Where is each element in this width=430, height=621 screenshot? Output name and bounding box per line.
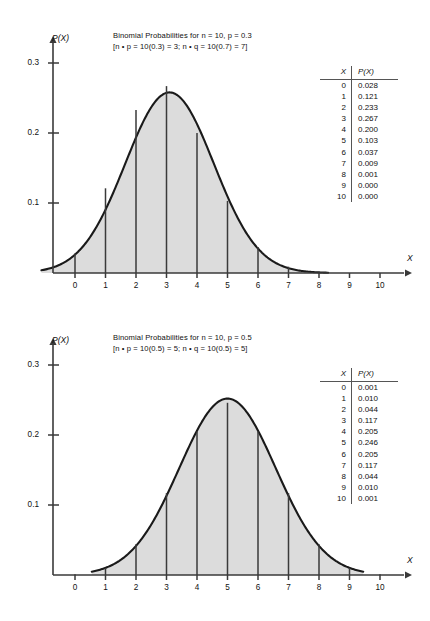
table-row: 00.028 xyxy=(320,80,398,92)
x-tick-label: 8 xyxy=(308,583,330,592)
table-cell-x: 10 xyxy=(320,191,352,202)
table-cell-x: 6 xyxy=(320,449,352,460)
y-tick-label: 0.3 xyxy=(15,58,39,67)
table-cell-x: 7 xyxy=(320,460,352,471)
x-tick-label: 2 xyxy=(125,281,147,290)
table-row: 40.205 xyxy=(320,426,398,437)
table-header-p: P(X) xyxy=(352,66,399,80)
table-row: 90.010 xyxy=(320,482,398,493)
table-cell-probability: 0.117 xyxy=(352,460,399,471)
table-cell-x: 0 xyxy=(320,80,352,92)
table-cell-x: 5 xyxy=(320,437,352,448)
table-cell-probability: 0.000 xyxy=(352,180,399,191)
table-cell-probability: 0.200 xyxy=(352,124,399,135)
table-cell-x: 1 xyxy=(320,91,352,102)
table-row: 80.001 xyxy=(320,169,398,180)
table-cell-probability: 0.009 xyxy=(352,158,399,169)
table-cell-probability: 0.233 xyxy=(352,102,399,113)
table-body-1: 00.00110.01020.04430.11740.20550.24660.2… xyxy=(320,382,398,505)
table-cell-x: 1 xyxy=(320,393,352,404)
table-cell-probability: 0.001 xyxy=(352,169,399,180)
x-tick-label: 7 xyxy=(278,583,300,592)
table-row: 10.121 xyxy=(320,91,398,102)
table-cell-x: 6 xyxy=(320,147,352,158)
table-cell-x: 8 xyxy=(320,169,352,180)
table-cell-probability: 0.037 xyxy=(352,147,399,158)
table-cell-x: 3 xyxy=(320,113,352,124)
table-cell-x: 3 xyxy=(320,415,352,426)
x-tick-label: 6 xyxy=(247,583,269,592)
table-header-p: P(X) xyxy=(352,368,399,382)
table-cell-x: 5 xyxy=(320,135,352,146)
table-header-row: X P(X) xyxy=(320,66,398,80)
x-tick-label: 4 xyxy=(186,281,208,290)
table-row: 60.037 xyxy=(320,147,398,158)
x-tick-label: 6 xyxy=(247,281,269,290)
table-row: 100.000 xyxy=(320,191,398,202)
y-axis-label: P(X) xyxy=(52,335,69,345)
table-row: 30.267 xyxy=(320,113,398,124)
table-cell-x: 7 xyxy=(320,158,352,169)
x-tick-label: 5 xyxy=(217,281,239,290)
table-row: 10.010 xyxy=(320,393,398,404)
y-tick-label: 0.3 xyxy=(15,360,39,369)
table-cell-probability: 0.001 xyxy=(352,382,399,394)
x-tick-label: 10 xyxy=(369,583,391,592)
x-tick-label: 3 xyxy=(156,583,178,592)
table-cell-x: 2 xyxy=(320,102,352,113)
y-tick-label: 0.2 xyxy=(15,128,39,137)
x-tick-label: 3 xyxy=(156,281,178,290)
table-cell-probability: 0.028 xyxy=(352,80,399,92)
probability-table: X P(X) 00.00110.01020.04430.11740.20550.… xyxy=(320,368,398,504)
table-cell-probability: 0.103 xyxy=(352,135,399,146)
table-cell-probability: 0.044 xyxy=(352,471,399,482)
table-cell-probability: 0.267 xyxy=(352,113,399,124)
table-cell-probability: 0.121 xyxy=(352,91,399,102)
table-row: 70.117 xyxy=(320,460,398,471)
curve-region-0 xyxy=(41,92,328,273)
x-tick-label: 2 xyxy=(125,583,147,592)
table-row: 90.000 xyxy=(320,180,398,191)
table-cell-x: 0 xyxy=(320,382,352,394)
table-header-x: X xyxy=(320,368,352,382)
x-axis-arrow xyxy=(405,571,412,578)
table-cell-probability: 0.044 xyxy=(352,404,399,415)
binomial-probability-figure: Binomial Probabilities for n = 10, p = 0… xyxy=(0,0,430,621)
chart-panel-binomial-p05: Binomial Probabilities for n = 10, p = 0… xyxy=(0,305,430,610)
table-row: 50.246 xyxy=(320,437,398,448)
x-tick-label: 9 xyxy=(339,281,361,290)
table-header-x: X xyxy=(320,66,352,80)
table-cell-x: 2 xyxy=(320,404,352,415)
table-cell-probability: 0.205 xyxy=(352,449,399,460)
table-row: 00.001 xyxy=(320,382,398,394)
x-tick-label: 9 xyxy=(339,583,361,592)
table-row: 40.200 xyxy=(320,124,398,135)
table-row: 70.009 xyxy=(320,158,398,169)
x-axis-arrow xyxy=(405,269,412,276)
table-row: 20.044 xyxy=(320,404,398,415)
table-row: 30.117 xyxy=(320,415,398,426)
chart-panel-binomial-p03: Binomial Probabilities for n = 10, p = 0… xyxy=(0,0,430,305)
table-cell-x: 4 xyxy=(320,124,352,135)
table-cell-probability: 0.000 xyxy=(352,191,399,202)
x-axis-label: X xyxy=(407,253,413,263)
table-row: 80.044 xyxy=(320,471,398,482)
x-tick-label: 10 xyxy=(369,281,391,290)
table-row: 60.205 xyxy=(320,449,398,460)
x-tick-label: 1 xyxy=(95,583,117,592)
y-axis-label: P(X) xyxy=(52,33,69,43)
table-header-row: X P(X) xyxy=(320,368,398,382)
table-cell-x: 4 xyxy=(320,426,352,437)
table-cell-x: 9 xyxy=(320,180,352,191)
table-cell-probability: 0.246 xyxy=(352,437,399,448)
x-tick-label: 0 xyxy=(64,281,86,290)
x-tick-label: 5 xyxy=(217,583,239,592)
table-cell-probability: 0.010 xyxy=(352,393,399,404)
probability-table: X P(X) 00.02810.12120.23330.26740.20050.… xyxy=(320,66,398,202)
x-tick-label: 4 xyxy=(186,583,208,592)
table-cell-probability: 0.001 xyxy=(352,493,399,504)
table-cell-x: 9 xyxy=(320,482,352,493)
x-tick-label: 8 xyxy=(308,281,330,290)
table-cell-probability: 0.010 xyxy=(352,482,399,493)
y-tick-label: 0.1 xyxy=(15,500,39,509)
